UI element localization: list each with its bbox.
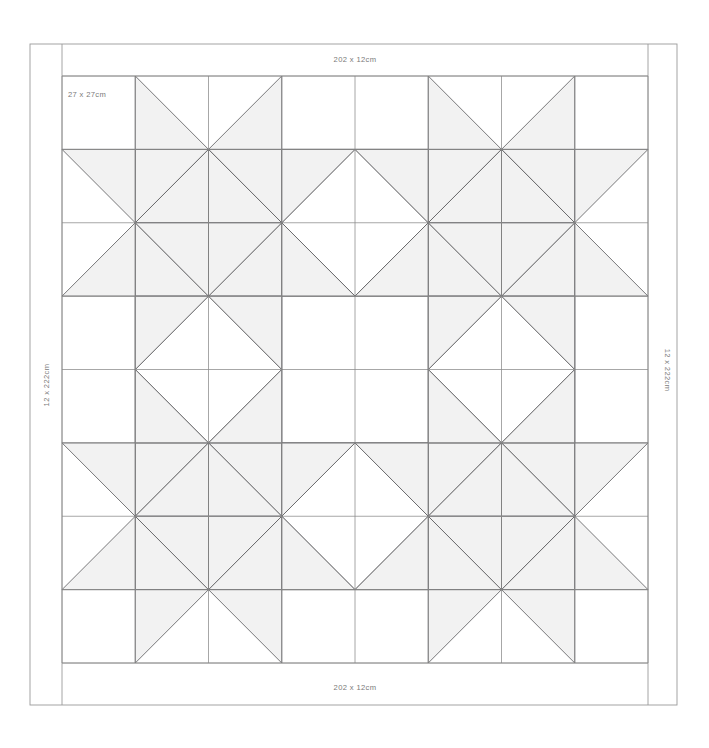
quilt-diagram-canvas: 202 x 12cm 202 x 12cm 12 x 222cm 12 x 22…: [0, 0, 709, 748]
star-point: [355, 443, 428, 516]
star-point: [575, 149, 648, 222]
star-point: [502, 76, 575, 149]
star-point: [575, 223, 648, 296]
star-point: [355, 516, 428, 589]
star-point: [355, 149, 428, 222]
star-point: [135, 76, 208, 149]
star-point: [428, 76, 501, 149]
star-point: [62, 223, 135, 296]
star-point: [135, 296, 208, 369]
star-point: [62, 443, 135, 516]
star-point: [135, 590, 208, 663]
star-point: [502, 370, 575, 443]
star-point: [135, 370, 208, 443]
dimension-label-top: 202 x 12cm: [334, 55, 377, 64]
star-point: [428, 370, 501, 443]
star-point: [502, 590, 575, 663]
star-point: [575, 516, 648, 589]
star-point: [209, 590, 282, 663]
star-point: [282, 223, 355, 296]
star-point: [355, 223, 428, 296]
star-point: [428, 296, 501, 369]
quilt-diagram-stage: 202 x 12cm 202 x 12cm 12 x 222cm 12 x 22…: [0, 0, 709, 748]
quilt-border-frame: [30, 44, 677, 705]
star-point: [282, 516, 355, 589]
star-point: [282, 443, 355, 516]
block-size-label: 27 x 27cm: [68, 90, 106, 99]
star-point: [575, 443, 648, 516]
star-point: [209, 76, 282, 149]
outer-border-rect: [30, 44, 677, 705]
star-point: [502, 296, 575, 369]
star-point: [209, 296, 282, 369]
star-point: [282, 149, 355, 222]
dimension-label-right: 12 x 222cm: [663, 349, 672, 392]
dimension-label-bottom: 202 x 12cm: [334, 683, 377, 692]
star-point: [209, 370, 282, 443]
dimension-label-left: 12 x 222cm: [42, 364, 51, 407]
star-point: [62, 516, 135, 589]
star-point: [62, 149, 135, 222]
star-point: [428, 590, 501, 663]
